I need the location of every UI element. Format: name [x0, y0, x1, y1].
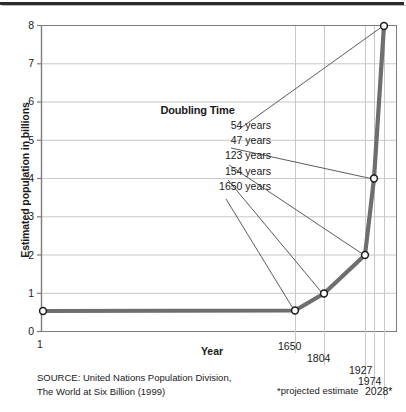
- ytick-label-8: 8: [12, 19, 34, 31]
- xtick-label-1: 1: [37, 338, 43, 350]
- x-axis-title: Year: [152, 345, 272, 357]
- ytick-label-0: 0: [12, 325, 34, 337]
- legend-row-47-years: 47 years: [120, 133, 275, 148]
- doubling-time-legend: Doubling Time 54 years 47 years 123 year…: [120, 104, 275, 194]
- xtick-label-2028: 2028*: [365, 385, 392, 397]
- legend-title: Doubling Time: [120, 104, 275, 116]
- xtick-label-1804: 1804: [307, 352, 330, 364]
- legend-row-54-years: 54 years: [120, 118, 275, 133]
- source-note: SOURCE: United Nations Population Divisi…: [37, 371, 231, 398]
- source-note-line-2: The World at Six Billion (1999): [37, 385, 231, 399]
- legend-row-1650-years: 1650 years: [120, 179, 275, 194]
- y-axis-title: Estimated population in billions: [19, 65, 31, 295]
- legend-row-154-years: 154 years: [120, 164, 275, 179]
- y-axis-spine: [37, 26, 42, 332]
- population-growth-chart-figure: 8 7 6 5 4 3 2 1 0 1 1650 1804 1927 1974 …: [0, 0, 406, 412]
- data-point-year-1927: [362, 252, 369, 259]
- data-point-year-1650: [292, 307, 299, 314]
- legend-row-123-years: 123 years: [120, 148, 275, 163]
- data-point-year-1974: [371, 175, 378, 182]
- xtick-label-1650: 1650: [278, 340, 301, 352]
- data-point-year-1: [40, 308, 47, 315]
- data-point-year-1804: [321, 290, 328, 297]
- data-point-year-2028: [381, 23, 388, 30]
- projected-estimate-footnote: *projected estimate: [277, 385, 358, 396]
- source-note-line-1: SOURCE: United Nations Population Divisi…: [37, 371, 231, 385]
